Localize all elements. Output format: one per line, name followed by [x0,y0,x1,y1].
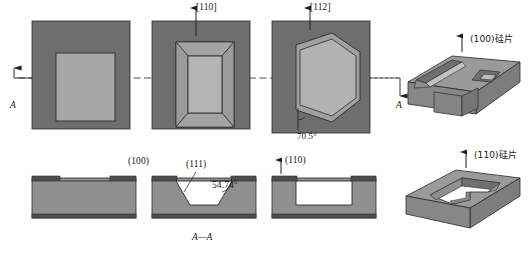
etching-figure: [110] [112] 70.5° A A (100) (111) 54.74°… [0,0,530,262]
angle-label-54-74: 54.74° [212,180,238,190]
plane-label-111: (111) [186,159,206,169]
cross-section-vgroove [152,172,256,218]
cross-section-flat [32,176,136,218]
direction-label-112: [112] [310,2,331,12]
top-view-mask-opening [32,21,130,129]
angle-label-70-5: 70.5° [297,131,317,141]
section-mark-label-right: A [396,100,402,110]
plane-label-110: (110) [285,155,306,165]
iso-view-110-wafer [406,152,520,228]
iso-view-100-wafer [408,36,520,116]
direction-label-110: [110] [196,2,217,12]
section-mark-left [14,68,32,78]
top-view-hexagonal-cavity [272,8,370,133]
section-view-label: A—A [192,232,212,242]
iso-label-110-wafer: (110)硅片 [474,148,517,161]
figure-canvas [0,0,530,262]
top-view-pyramid-cavity [152,8,250,129]
plane-label-100: (100) [128,156,149,166]
section-mark-right [370,78,400,96]
iso-label-100-wafer: (100)硅片 [470,32,513,45]
cross-section-trench [272,160,376,218]
section-mark-label-left: A [10,100,16,110]
